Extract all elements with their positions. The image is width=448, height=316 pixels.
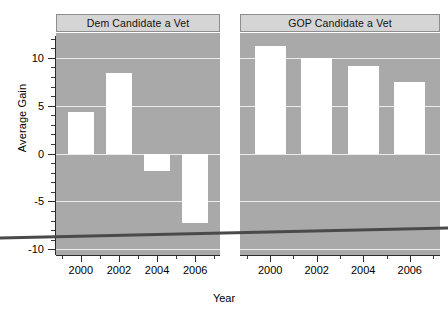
bar [394,82,425,154]
y-axis-title: Average Gain [16,58,28,178]
y-tick-major [48,58,55,59]
y-tick-minor [51,87,55,88]
x-tick-minor [138,256,139,259]
y-tick-minor [51,67,55,68]
facet-strip-label-dem: Dem Candidate a Vet [87,17,190,29]
x-tick-major [119,256,120,262]
gridline [56,249,220,250]
gridline [240,201,440,202]
x-tick-minor [214,256,215,259]
x-tick-major [363,256,364,262]
x-tick-label: 2004 [137,264,177,276]
plot-area-gop [240,33,440,255]
bar [144,154,170,171]
x-tick-major [317,256,318,262]
x-tick-label: 2006 [175,264,215,276]
facet-strip-dem: Dem Candidate a Vet [56,14,220,32]
bar [182,154,208,224]
y-tick-minor [51,125,55,126]
x-tick-major [157,256,158,262]
x-tick-major [195,256,196,262]
y-tick-minor [51,39,55,40]
x-tick-label: 2000 [250,264,290,276]
x-tick-major [81,256,82,262]
gridline [56,106,220,107]
x-tick-minor [247,256,248,259]
y-tick-major [48,106,55,107]
bar [255,46,286,153]
gridline [240,154,440,155]
chart-figure: 1050-5-10 Average Gain Year Dem Candidat… [0,0,448,316]
y-tick-minor [51,77,55,78]
x-tick-minor [100,256,101,259]
gridline [56,58,220,59]
y-tick-minor [51,115,55,116]
y-tick-label: -10 [18,244,44,254]
bar [301,58,332,154]
bar [106,73,132,153]
x-tick-minor [387,256,388,259]
facet-strip-label-gop: GOP Candidate a Vet [288,17,392,29]
y-tick-minor [51,221,55,222]
y-tick-minor [51,230,55,231]
y-tick-minor [51,192,55,193]
plot-area-dem [56,33,220,255]
y-tick-minor [51,173,55,174]
x-tick-minor [293,256,294,259]
y-tick-minor [51,134,55,135]
y-tick-label: -5 [18,196,44,206]
y-tick-minor [51,163,55,164]
gridline [240,249,440,250]
x-tick-major [270,256,271,262]
x-tick-minor [340,256,341,259]
x-tick-major [410,256,411,262]
x-tick-label: 2006 [390,264,430,276]
bar [68,112,94,153]
x-tick-minor [62,256,63,259]
facet-strip-gop: GOP Candidate a Vet [240,14,440,32]
x-tick-minor [433,256,434,259]
x-tick-label: 2000 [61,264,101,276]
y-tick-major [48,249,55,250]
y-tick-minor [51,211,55,212]
y-tick-minor [51,144,55,145]
y-tick-minor [51,48,55,49]
x-tick-minor [176,256,177,259]
y-tick-major [48,201,55,202]
x-tick-label: 2002 [297,264,337,276]
y-tick-minor [51,182,55,183]
y-tick-minor [51,96,55,97]
x-tick-label: 2004 [343,264,383,276]
bar [348,66,379,153]
x-axis-title: Year [0,292,448,304]
y-tick-minor [51,240,55,241]
x-tick-label: 2002 [99,264,139,276]
y-tick-major [48,154,55,155]
